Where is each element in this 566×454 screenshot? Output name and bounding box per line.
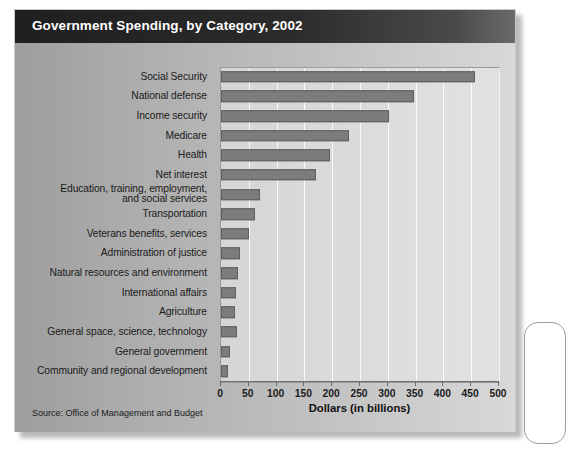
- bar: [221, 208, 255, 220]
- x-tick-label: 450: [462, 388, 479, 399]
- bar: [221, 365, 228, 377]
- bar-row: Education, training, employment, and soc…: [15, 185, 498, 205]
- x-tick-label: 250: [350, 388, 367, 399]
- x-tick-label: 0: [217, 388, 223, 399]
- x-tick-label: 350: [406, 388, 423, 399]
- gridline: [499, 68, 500, 382]
- x-tick: [220, 381, 221, 386]
- x-tick-label: 300: [378, 388, 395, 399]
- bar-row: Income security: [15, 106, 498, 126]
- category-label: General government: [115, 346, 207, 357]
- bar: [221, 346, 230, 358]
- bar: [221, 248, 240, 260]
- figure-frame: Government Spending, by Category, 2002 S…: [14, 9, 516, 432]
- x-tick: [442, 381, 443, 386]
- x-tick: [276, 381, 277, 386]
- x-tick: [470, 381, 471, 386]
- bar-row: Health: [15, 146, 498, 166]
- chart-title-bar: Government Spending, by Category, 2002: [15, 10, 515, 43]
- bar: [221, 189, 260, 201]
- x-tick: [248, 381, 249, 386]
- bar: [221, 71, 475, 83]
- chart-source: Source: Office of Management and Budget: [32, 408, 202, 418]
- bar: [221, 169, 316, 181]
- bar: [221, 150, 330, 162]
- bar-row: Medicare: [15, 126, 498, 146]
- category-label: International affairs: [122, 287, 207, 298]
- x-tick: [498, 381, 499, 386]
- bar-row: Community and regional development: [15, 361, 498, 381]
- bar-row: Natural resources and environment: [15, 263, 498, 283]
- chart-figure: Government Spending, by Category, 2002 S…: [14, 9, 516, 432]
- x-tick: [415, 381, 416, 386]
- x-tick-label: 100: [267, 388, 284, 399]
- bar-row: General space, science, technology: [15, 322, 498, 342]
- x-tick-label: 500: [489, 388, 506, 399]
- category-label: Transportation: [142, 209, 207, 220]
- x-tick: [331, 381, 332, 386]
- x-tick: [303, 381, 304, 386]
- x-tick-label: 150: [295, 388, 312, 399]
- category-label: Community and regional development: [37, 366, 207, 377]
- adjacent-callout-box: [524, 322, 566, 444]
- chart-title: Government Spending, by Category, 2002: [32, 18, 303, 33]
- category-label: Agriculture: [159, 307, 207, 318]
- x-tick-label: 200: [323, 388, 340, 399]
- category-label: Veterans benefits, services: [87, 229, 207, 240]
- category-label: General space, science, technology: [47, 327, 207, 338]
- bar-row: Veterans benefits, services: [15, 224, 498, 244]
- bar: [221, 307, 235, 319]
- category-label: Health: [178, 150, 207, 161]
- bar-row: Net interest: [15, 165, 498, 185]
- bar-row: Administration of justice: [15, 244, 498, 264]
- bar: [221, 326, 237, 338]
- bar-row: National defense: [15, 87, 498, 107]
- category-label: Education, training, employment, and soc…: [60, 184, 207, 205]
- category-label: Medicare: [165, 130, 207, 141]
- category-label: Income security: [136, 111, 207, 122]
- bar-row: Agriculture: [15, 303, 498, 323]
- bar-rows: Social SecurityNational defenseIncome se…: [15, 67, 498, 381]
- bar: [221, 267, 238, 279]
- category-label: Natural resources and environment: [49, 268, 207, 279]
- bar-row: Social Security: [15, 67, 498, 87]
- x-tick: [359, 381, 360, 386]
- x-axis-title: Dollars (in billions): [220, 402, 499, 414]
- category-label: Administration of justice: [101, 248, 207, 259]
- bar: [221, 91, 414, 103]
- x-tick-label: 400: [434, 388, 451, 399]
- x-tick: [387, 381, 388, 386]
- x-tick-label: 50: [242, 388, 253, 399]
- category-label: Social Security: [140, 72, 207, 83]
- category-label: National defense: [131, 91, 207, 102]
- bar: [221, 130, 349, 142]
- category-label: Net interest: [156, 170, 207, 181]
- bar-row: International affairs: [15, 283, 498, 303]
- bar: [221, 110, 389, 122]
- bar-row: General government: [15, 342, 498, 362]
- bar: [221, 228, 249, 240]
- bar-row: Transportation: [15, 204, 498, 224]
- bar: [221, 287, 236, 299]
